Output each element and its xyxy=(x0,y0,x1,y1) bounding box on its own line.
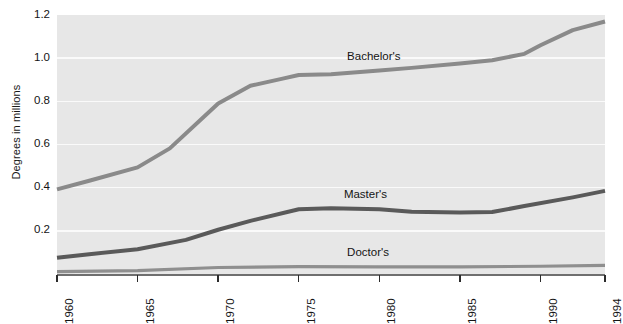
x-tick-mark xyxy=(298,275,299,282)
series-line xyxy=(57,191,605,258)
x-tick-label: 1994 xyxy=(611,284,623,324)
series-line xyxy=(57,265,605,271)
x-axis-line xyxy=(57,274,605,276)
x-tick-label: 1960 xyxy=(63,284,75,324)
series-label-doctors: Doctor's xyxy=(347,246,389,258)
x-tick-mark xyxy=(56,275,57,282)
x-tick-label: 1990 xyxy=(547,284,559,324)
x-tick-mark xyxy=(459,275,460,282)
x-tick-label: 1970 xyxy=(224,284,236,324)
x-tick-label: 1965 xyxy=(144,284,156,324)
x-tick-label: 1985 xyxy=(466,284,478,324)
series-label-bachelors: Bachelor's xyxy=(347,50,400,62)
x-tick-mark xyxy=(540,275,541,282)
x-tick-label: 1980 xyxy=(385,284,397,324)
x-tick-mark xyxy=(137,275,138,282)
x-tick-mark xyxy=(604,275,605,282)
series-label-masters: Master's xyxy=(344,188,387,200)
x-tick-mark xyxy=(217,275,218,282)
x-tick-label: 1975 xyxy=(305,284,317,324)
x-tick-mark xyxy=(379,275,380,282)
series-line xyxy=(57,21,605,189)
